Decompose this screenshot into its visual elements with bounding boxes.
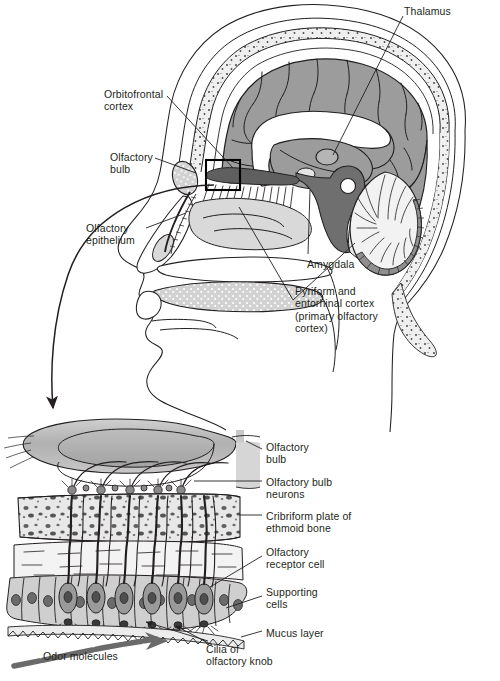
label-mucus-layer: Mucus layer (266, 627, 324, 639)
label-cribriform-plate: Cribriform plate of ethmoid bone (266, 510, 351, 535)
label-olfactory-receptor-cell: Olfactory receptor cell (266, 546, 325, 571)
label-olfactory-bulb-neurons: Olfactory bulb neurons (266, 476, 332, 501)
label-supporting-cells: Supporting cells (266, 586, 318, 611)
red-nucleus (341, 179, 356, 194)
epithelium-detail-group (4, 419, 262, 666)
label-olfactory-bulb: Olfactory bulb (110, 151, 153, 176)
olfactory-pathway-figure: Thalamus Orbitofrontal cortex Olfactory … (0, 0, 500, 681)
label-cilia-of-olfactory-knob: Cilia of olfactory knob (206, 643, 273, 668)
label-thalamus: Thalamus (404, 5, 451, 17)
label-amygdala: Amygdala (307, 258, 355, 270)
label-olfactory-epithelium: Olfactory epithelium (86, 222, 135, 247)
sagittal-head-group (52, 4, 466, 432)
label-orbitofrontal-cortex: Orbitofrontal cortex (104, 88, 163, 113)
label-olfactory-bulb-detail: Olfactory bulb (266, 441, 309, 466)
label-pyriform-entorhinal-cortex: Pyriform and entorhinal cortex (primary … (295, 285, 378, 335)
figure-canvas (0, 0, 500, 681)
label-odor-molecules: Odor molecules (43, 650, 118, 662)
leader-mucus (241, 631, 262, 637)
occipital-bone (392, 283, 436, 357)
